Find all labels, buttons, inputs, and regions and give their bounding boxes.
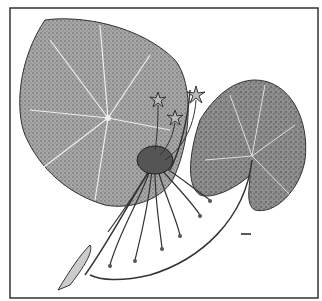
botanical-illustration — [0, 0, 322, 301]
small-leaf — [191, 80, 306, 211]
fruit-capsule — [58, 245, 91, 290]
illustration-svg — [0, 0, 322, 301]
large-leaf — [20, 19, 188, 206]
root-mass — [137, 146, 173, 174]
